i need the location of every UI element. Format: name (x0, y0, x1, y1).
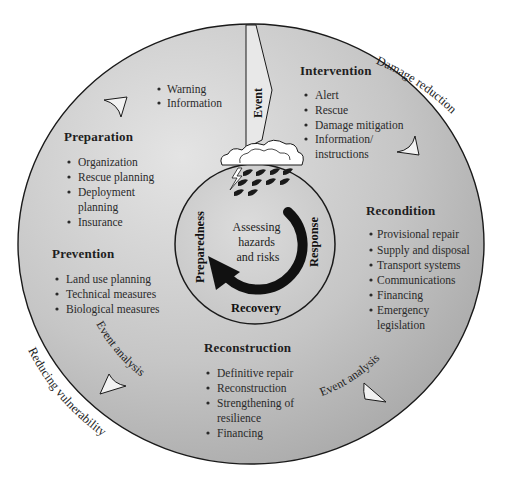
reconstruction-heading: Reconstruction (204, 340, 292, 355)
list-item: Land use planning (66, 273, 151, 286)
center-text: Assessing hazards and risks (232, 220, 283, 264)
list-item: Reconstruction (217, 382, 287, 394)
list-item-continuation: resilience (217, 412, 261, 424)
list-item: Rescue planning (78, 171, 155, 184)
prevention-list: Land use planning Technical measures Bio… (55, 273, 160, 316)
list-item: Rescue (315, 104, 348, 116)
list-item: Information/ (315, 133, 374, 145)
list-item: Strengthening of (217, 397, 294, 410)
phase-response: Response (307, 217, 321, 267)
list-item-continuation: legislation (377, 319, 425, 332)
list-item: Financing (377, 289, 423, 302)
list-item: Financing (217, 427, 263, 440)
list-item-continuation: instructions (315, 148, 369, 160)
list-item: Provisional repair (377, 228, 459, 241)
list-item: Damage mitigation (315, 119, 404, 132)
phase-recovery: Recovery (231, 301, 282, 315)
list-item-continuation: planning (78, 201, 118, 214)
list-item: Supply and disposal (377, 244, 470, 257)
center-line-2: hazards (238, 235, 275, 249)
list-item: Communications (377, 274, 456, 286)
center-line-3: and risks (237, 250, 280, 264)
recondition-heading: Recondition (366, 203, 436, 218)
phase-preparedness: Preparedness (193, 211, 207, 283)
list-item: Deployment (78, 186, 136, 199)
disaster-cycle-diagram: Event Assessing hazards and risks Prepar… (0, 0, 512, 489)
event-label: Event (251, 88, 265, 118)
preparation-heading: Preparation (64, 129, 134, 144)
list-item: Technical measures (66, 288, 157, 300)
list-item: Biological measures (66, 303, 160, 316)
list-item: Warning (167, 83, 207, 96)
list-item: Emergency (377, 304, 429, 317)
intervention-heading: Intervention (300, 63, 372, 78)
list-item: Definitive repair (217, 367, 293, 380)
list-item: Insurance (78, 216, 123, 228)
list-item: Information (167, 97, 222, 109)
center-line-1: Assessing (232, 220, 280, 234)
list-item: Organization (78, 156, 138, 169)
list-item: Alert (315, 89, 339, 101)
list-item: Transport systems (377, 259, 461, 272)
prevention-heading: Prevention (52, 246, 115, 261)
